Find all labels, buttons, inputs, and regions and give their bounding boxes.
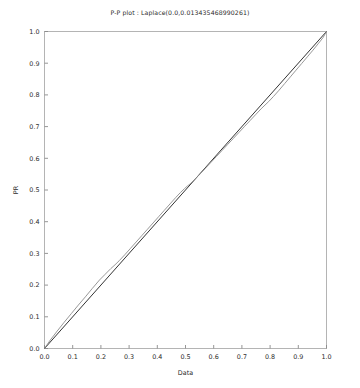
x-tick-label: 0.8 <box>265 353 275 361</box>
x-tick-label: 0.3 <box>124 353 134 361</box>
y-axis-ticks <box>45 32 49 349</box>
y-tick-label: 0.5 <box>29 186 39 194</box>
y-tick-label: 0.9 <box>29 60 39 68</box>
series-reference-line <box>45 32 327 349</box>
chart-figure: P-P plot : Laplace(0.0,0.013435468990261… <box>0 0 360 388</box>
y-tick-label: 0.8 <box>29 91 39 99</box>
y-tick-label: 0.1 <box>29 313 39 321</box>
y-tick-label: 1.0 <box>29 28 39 36</box>
y-axis-title: PR <box>12 185 20 194</box>
x-tick-label: 0.6 <box>209 353 219 361</box>
x-axis-title: Data <box>178 369 193 377</box>
x-axis-ticks <box>45 345 327 349</box>
x-axis-tick-labels: 0.00.10.20.30.40.50.60.70.80.91.0 <box>39 353 331 361</box>
y-tick-label: 0.3 <box>29 250 39 258</box>
y-tick-label: 0.0 <box>29 345 39 353</box>
x-tick-label: 0.4 <box>152 353 162 361</box>
y-tick-label: 0.6 <box>29 155 39 163</box>
pp-plot-canvas: 0.00.10.20.30.40.50.60.70.80.91.0 0.00.1… <box>0 0 360 388</box>
x-tick-label: 0.0 <box>39 353 49 361</box>
y-tick-label: 0.4 <box>29 218 39 226</box>
y-tick-label: 0.2 <box>29 281 39 289</box>
x-tick-label: 0.2 <box>96 353 106 361</box>
data-series-layer <box>45 32 327 349</box>
x-tick-label: 0.9 <box>293 353 303 361</box>
x-tick-label: 0.7 <box>237 353 247 361</box>
x-tick-label: 1.0 <box>321 353 331 361</box>
y-tick-label: 0.7 <box>29 123 39 131</box>
x-tick-label: 0.1 <box>68 353 78 361</box>
y-axis-tick-labels: 0.00.10.20.30.40.50.60.70.80.91.0 <box>29 28 39 353</box>
x-tick-label: 0.5 <box>180 353 190 361</box>
